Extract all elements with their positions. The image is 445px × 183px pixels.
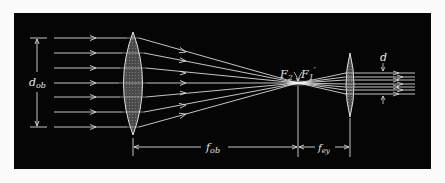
telescope-ray-diagram: dob fob fey F2 F1′ d [0,0,445,183]
exit-beam-diameter-label: d [380,51,387,64]
focal-point-f1-prime-label: F1′ [300,66,316,82]
diagram-panel [14,13,431,169]
